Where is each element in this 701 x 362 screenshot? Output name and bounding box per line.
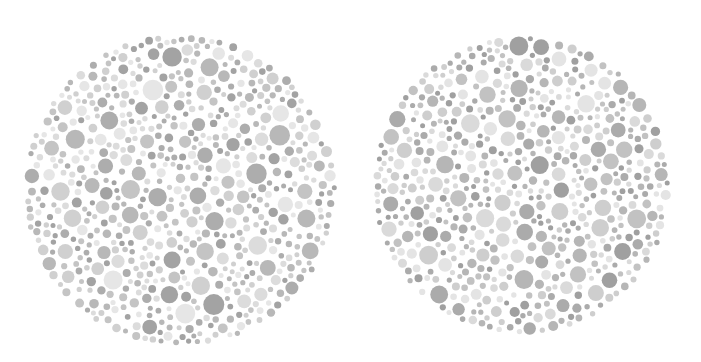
dot	[545, 146, 552, 153]
dot	[513, 220, 518, 225]
dot	[647, 183, 654, 190]
dot	[578, 213, 587, 222]
dot	[375, 199, 380, 204]
dot	[552, 76, 563, 87]
dot	[213, 134, 219, 140]
dot	[589, 276, 594, 281]
dot	[451, 118, 457, 124]
dot	[128, 258, 134, 264]
dot	[266, 300, 271, 305]
dot	[132, 332, 140, 340]
dot	[30, 143, 37, 150]
dot	[201, 133, 206, 138]
dot	[307, 151, 317, 161]
dot	[75, 189, 82, 196]
dot	[167, 185, 172, 190]
dot	[268, 238, 273, 243]
dot	[469, 316, 478, 325]
dot	[301, 268, 306, 273]
dot	[483, 178, 488, 183]
dot	[209, 98, 217, 106]
dot	[540, 328, 545, 333]
dot	[543, 180, 549, 186]
dot	[109, 215, 117, 223]
dot	[544, 57, 550, 63]
dot	[499, 151, 504, 156]
dot	[167, 237, 178, 248]
dot	[111, 74, 118, 81]
dot	[530, 151, 535, 156]
dot	[127, 111, 133, 117]
dot	[595, 107, 600, 112]
dot	[61, 170, 67, 176]
dot	[306, 110, 312, 116]
dot	[111, 306, 118, 313]
dot	[249, 70, 258, 79]
dot	[529, 176, 537, 184]
dot	[78, 255, 83, 260]
dot	[536, 91, 541, 96]
dot	[53, 163, 58, 168]
dot	[269, 224, 277, 232]
dot	[247, 107, 256, 116]
dot	[459, 225, 468, 234]
dot	[443, 219, 448, 224]
dot	[291, 212, 296, 217]
dot	[501, 253, 508, 260]
dot	[519, 204, 534, 219]
dot	[140, 196, 146, 202]
dot	[536, 195, 541, 200]
dot	[35, 220, 41, 226]
dot	[430, 286, 448, 304]
dot	[459, 236, 464, 241]
dot	[435, 242, 440, 247]
dot	[546, 139, 551, 144]
dot	[186, 257, 195, 266]
dot	[422, 168, 428, 174]
dot	[463, 213, 473, 223]
dot	[450, 223, 457, 230]
dot	[321, 146, 332, 157]
dot	[136, 312, 142, 318]
dot	[285, 170, 293, 178]
dot	[180, 209, 189, 218]
dot	[104, 260, 110, 266]
dot	[500, 53, 505, 58]
dot	[397, 248, 405, 256]
dot	[85, 115, 90, 120]
dot	[440, 195, 447, 202]
dot	[144, 179, 150, 185]
dot	[181, 292, 191, 302]
dot	[484, 315, 489, 320]
dot	[119, 241, 124, 246]
dot	[250, 270, 256, 276]
dot	[537, 125, 550, 138]
dot	[492, 277, 497, 282]
dot	[36, 238, 41, 243]
dot	[487, 40, 492, 45]
dot	[297, 184, 312, 199]
dot	[492, 168, 503, 179]
dot	[197, 331, 202, 336]
dot	[428, 177, 443, 192]
dot	[133, 266, 138, 271]
dot	[519, 98, 526, 105]
dot	[219, 273, 224, 278]
dot	[494, 195, 510, 211]
dot	[130, 249, 135, 254]
dot	[520, 313, 525, 318]
dot	[484, 241, 490, 247]
dot	[541, 270, 551, 280]
dot	[274, 186, 279, 191]
dot	[286, 241, 292, 247]
dot	[472, 98, 477, 103]
dot	[178, 91, 185, 98]
dot	[500, 180, 506, 186]
dot	[209, 39, 214, 44]
dot	[278, 197, 293, 212]
dot	[625, 101, 631, 107]
dot	[494, 38, 503, 47]
dot	[180, 269, 185, 274]
dot	[381, 221, 396, 236]
dot	[55, 207, 62, 214]
